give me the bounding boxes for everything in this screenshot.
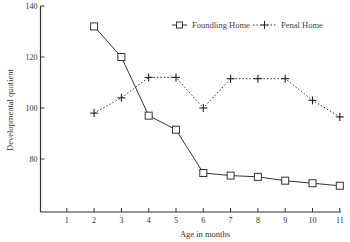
y-tick-label: 140	[26, 2, 38, 11]
legend: Foundling Home Penal Home	[172, 20, 323, 30]
series-foundling-home	[91, 23, 344, 189]
y-tick-label: 100	[26, 104, 38, 113]
square-marker-icon	[254, 173, 261, 180]
square-marker-icon	[282, 177, 289, 184]
plus-marker-icon	[227, 75, 235, 83]
axes	[41, 6, 342, 212]
square-marker-icon	[336, 182, 343, 189]
x-tick-label: 7	[229, 216, 233, 225]
x-tick-label: 4	[147, 216, 151, 225]
x-axis-label: Age in months	[180, 229, 230, 239]
y-axis-label: Developmental quotient	[5, 68, 15, 151]
x-tick-label: 1	[65, 216, 69, 225]
square-marker-icon	[145, 112, 152, 119]
square-marker-icon	[118, 54, 125, 61]
legend-item-penal-home: Penal Home	[253, 20, 323, 30]
plus-marker-icon	[172, 73, 180, 81]
x-tick-label: 6	[201, 216, 205, 225]
legend-label-foundling-home: Foundling Home	[192, 20, 250, 30]
square-marker-icon	[173, 126, 180, 133]
x-tick-label: 5	[174, 216, 178, 225]
plus-marker-icon	[145, 73, 153, 81]
x-tick-label: 3	[119, 216, 123, 225]
square-marker-icon	[309, 180, 316, 187]
plus-marker-icon	[336, 113, 344, 121]
plus-marker-icon	[90, 109, 98, 117]
x-tick-label: 2	[92, 216, 96, 225]
plus-marker-icon	[261, 21, 269, 29]
square-marker-icon	[177, 22, 183, 28]
series-layer	[90, 23, 344, 189]
y-tick-label: 80	[30, 155, 38, 164]
x-tick-label: 9	[283, 216, 287, 225]
square-marker-icon	[200, 170, 207, 177]
square-marker-icon	[227, 172, 234, 179]
plus-marker-icon	[254, 75, 262, 83]
series-penal-home	[90, 73, 344, 121]
x-tick-label: 8	[256, 216, 260, 225]
square-marker-icon	[91, 23, 98, 30]
x-axis-ticks: 1234567891011	[65, 208, 344, 225]
legend-label-penal-home: Penal Home	[281, 20, 323, 30]
x-tick-label: 11	[336, 216, 344, 225]
legend-item-foundling-home: Foundling Home	[172, 20, 250, 30]
y-tick-label: 120	[26, 53, 38, 62]
y-axis-ticks: 80100120140	[26, 2, 45, 164]
plus-marker-icon	[117, 94, 125, 102]
x-tick-label: 10	[309, 216, 317, 225]
line-chart: 80100120140 1234567891011 Age in months …	[0, 0, 350, 242]
